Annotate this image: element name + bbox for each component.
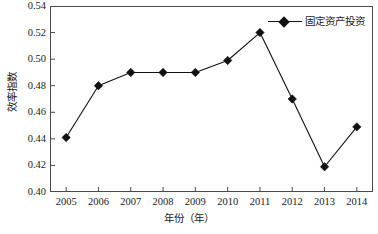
y-tick-label: 0.42 bbox=[28, 160, 46, 170]
legend-marker-icon bbox=[268, 17, 302, 27]
x-tick-label: 2014 bbox=[337, 196, 377, 207]
y-tick-label: 0.52 bbox=[28, 28, 46, 38]
data-point-marker bbox=[94, 82, 102, 90]
y-axis-title: 效率指数 bbox=[7, 56, 18, 128]
line-chart: 0.540.520.500.480.460.440.420.40 效率指数 20… bbox=[0, 0, 378, 234]
y-tick-label: 0.46 bbox=[28, 107, 46, 117]
y-tick-label: 0.44 bbox=[28, 134, 46, 144]
data-line bbox=[66, 33, 357, 167]
data-series-layer bbox=[50, 6, 373, 192]
y-tick-label: 0.48 bbox=[28, 81, 46, 91]
data-point-marker bbox=[127, 68, 135, 76]
data-point-marker bbox=[159, 68, 167, 76]
x-axis-title: 年份（年） bbox=[0, 212, 378, 224]
data-point-marker bbox=[191, 68, 199, 76]
y-tick-label: 0.54 bbox=[28, 1, 46, 11]
legend-label-fixed-asset-investment: 固定资产投资 bbox=[305, 16, 365, 27]
legend: 固定资产投资 bbox=[268, 16, 365, 27]
y-tick-label: 0.40 bbox=[28, 187, 46, 197]
data-point-marker bbox=[288, 95, 296, 103]
y-tick-label: 0.50 bbox=[28, 54, 46, 64]
data-point-marker bbox=[62, 133, 70, 141]
